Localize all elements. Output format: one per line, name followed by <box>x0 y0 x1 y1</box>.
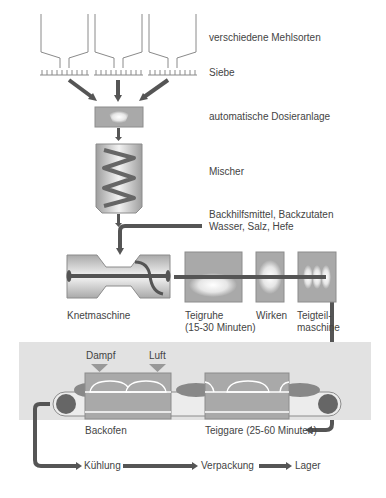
label-storage: Lager <box>295 460 321 472</box>
label-cooling: Kühlung <box>84 460 121 472</box>
label-kneader: Knetmaschine <box>67 310 130 322</box>
roller-right <box>318 394 338 414</box>
label-dosing: automatische Dosieranlage <box>209 111 330 123</box>
label-packaging: Verpackung <box>201 460 254 472</box>
label-oven: Backofen <box>85 425 127 437</box>
label-air: Luft <box>149 350 166 362</box>
flow-diagram-graphics <box>0 0 386 498</box>
label-dough-rest-line1: Teigruhe <box>185 310 223 322</box>
label-additives-line1: Backhilfsmittel, Backzutaten <box>209 209 334 221</box>
roller-left <box>56 394 76 414</box>
label-divider-line2: maschine <box>297 322 340 334</box>
sieves <box>40 70 197 75</box>
label-mixer: Mischer <box>209 166 244 178</box>
label-divider-line1: Teigteil- <box>297 310 331 322</box>
label-sieves: Siebe <box>209 67 235 79</box>
label-additives-line2: Wasser, Salz, Hefe <box>209 221 294 233</box>
label-flour-silos: verschiedene Mehlsorten <box>209 32 321 44</box>
label-dough-rest-line2: (15-30 Minuten) <box>185 322 256 334</box>
label-proofing: Teiggare (25-60 Minuten) <box>205 425 317 437</box>
flour-silos <box>41 14 196 68</box>
arrows-to-dosing <box>69 80 168 102</box>
label-steam: Dampf <box>86 350 115 362</box>
label-shaping: Wirken <box>256 310 287 322</box>
